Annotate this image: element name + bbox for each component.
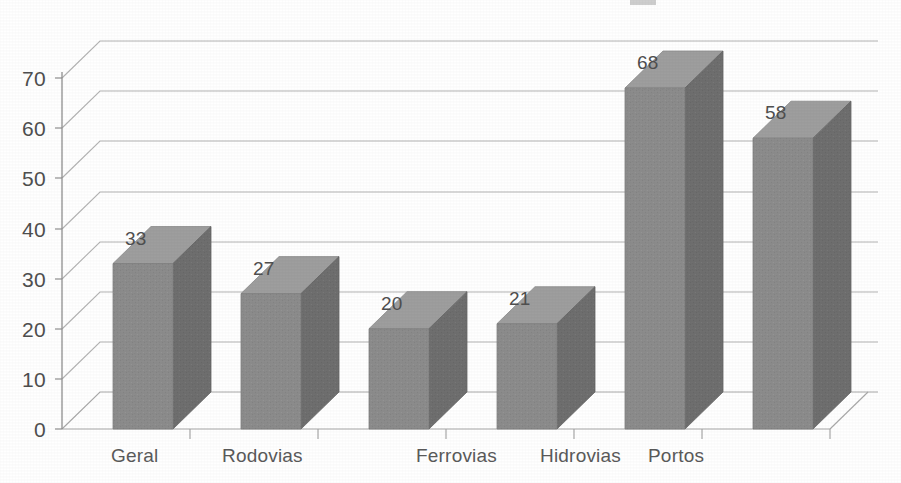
x-axis-label-ferrovias: Ferrovias (416, 446, 497, 465)
y-axis-tick-30: 30 (2, 269, 46, 290)
bar-value-geral: 33 (125, 229, 147, 248)
bar-chart: 70 60 50 40 30 20 10 0 33 27 20 21 68 58… (0, 0, 901, 483)
x-axis-label-rodovias: Rodovias (222, 446, 303, 465)
bar-value-hidrovias: 21 (509, 289, 531, 308)
y-axis-tick-60: 60 (2, 118, 46, 139)
x-axis-label-hidrovias: Hidrovias (540, 446, 621, 465)
bar-value-rodovias: 27 (253, 259, 275, 278)
x-axis-label-portos: Portos (648, 446, 704, 465)
cropped-title-artifact (630, 0, 656, 5)
bar-value-last: 58 (765, 103, 787, 122)
y-axis-tick-10: 10 (2, 369, 46, 390)
y-axis-tick-0: 0 (2, 419, 46, 440)
bar-value-portos: 68 (637, 53, 659, 72)
chart-text-layer: 70 60 50 40 30 20 10 0 33 27 20 21 68 58… (0, 0, 901, 483)
x-axis-label-geral: Geral (111, 446, 158, 465)
y-axis-tick-50: 50 (2, 168, 46, 189)
y-axis-tick-20: 20 (2, 319, 46, 340)
y-axis-tick-40: 40 (2, 219, 46, 240)
bar-value-ferrovias: 20 (381, 294, 403, 313)
y-axis-tick-70: 70 (2, 68, 46, 89)
